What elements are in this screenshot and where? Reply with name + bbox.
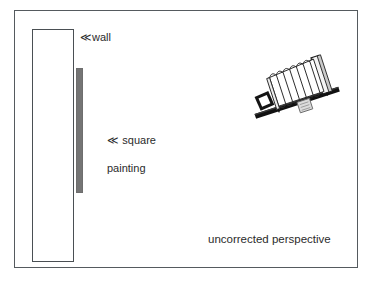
view-camera-illustration xyxy=(243,54,343,126)
square-painting-label-line2: painting xyxy=(95,161,156,175)
uncorrected-perspective-caption: uncorrected perspective xyxy=(208,233,331,246)
wall-label: ≪wall xyxy=(80,31,111,44)
perspective-diagram: ≪wall ≪ square painting uncorrected pers… xyxy=(0,0,376,285)
square-painting-edge-on xyxy=(76,68,83,193)
square-painting-label-line1: ≪ square xyxy=(107,134,156,146)
wall-rectangle xyxy=(32,29,74,262)
square-painting-label: ≪ square painting xyxy=(95,119,156,203)
